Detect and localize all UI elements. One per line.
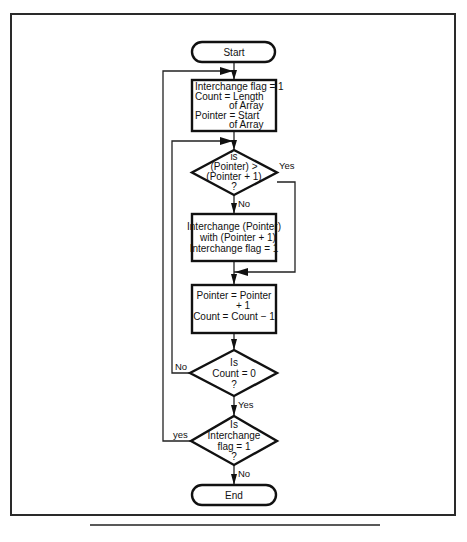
node-start: Start bbox=[192, 42, 275, 62]
node-text: Count = 0 bbox=[212, 368, 256, 379]
flowchart-canvas: Start Interchange flag = 1 Count = Lengt… bbox=[0, 0, 467, 542]
arrow-down-icon bbox=[231, 203, 237, 214]
node-text: Interchange (Pointer) bbox=[187, 221, 281, 232]
arrow-right-icon bbox=[220, 137, 233, 145]
edge-label-no: No bbox=[175, 361, 187, 372]
node-text: Pointer = Pointer bbox=[197, 290, 272, 301]
edge-label-yes: yes bbox=[173, 429, 188, 440]
node-text: End bbox=[225, 490, 243, 501]
node-text: of Array bbox=[229, 119, 263, 130]
arrow-down-icon bbox=[231, 339, 237, 350]
node-text: Interchange flag = 1 bbox=[190, 243, 279, 254]
node-text: with (Pointer + 1) bbox=[199, 232, 276, 243]
arrow-right-icon bbox=[220, 67, 233, 75]
arrow-down-icon bbox=[231, 274, 237, 285]
node-text: Count = Count − 1 bbox=[193, 311, 275, 322]
node-text: + 1 bbox=[236, 300, 251, 311]
arrow-down-icon bbox=[231, 405, 237, 416]
node-advance: Pointer = Pointer + 1 Count = Count − 1 bbox=[192, 285, 276, 333]
arrow-down-icon bbox=[231, 140, 237, 150]
node-end: End bbox=[192, 485, 276, 505]
arrow-down-icon bbox=[231, 474, 237, 485]
node-text: ? bbox=[231, 379, 237, 390]
edge-label-no: No bbox=[238, 198, 250, 209]
node-text: Start bbox=[223, 47, 244, 58]
edge-label-yes: Yes bbox=[238, 399, 254, 410]
node-flag-check: Is Interchange flag = 1 ? bbox=[191, 416, 277, 465]
arrow-left-icon bbox=[235, 268, 248, 276]
edge-label-no: No bbox=[238, 468, 250, 479]
node-text: Is bbox=[230, 357, 238, 368]
node-compare: is (Pointer) > (Pointer + 1) ? bbox=[192, 150, 277, 195]
node-text: ? bbox=[231, 181, 237, 192]
node-init: Interchange flag = 1 Count = Length of A… bbox=[192, 80, 284, 131]
node-text: ? bbox=[231, 451, 237, 462]
node-text: Is bbox=[230, 419, 238, 430]
node-count-zero: Is Count = 0 ? bbox=[190, 350, 277, 396]
arrow-down-icon bbox=[231, 70, 237, 80]
node-swap: Interchange (Pointer) with (Pointer + 1)… bbox=[187, 214, 281, 261]
edge-label-yes: Yes bbox=[279, 160, 295, 171]
node-text: Interchange bbox=[208, 430, 261, 441]
